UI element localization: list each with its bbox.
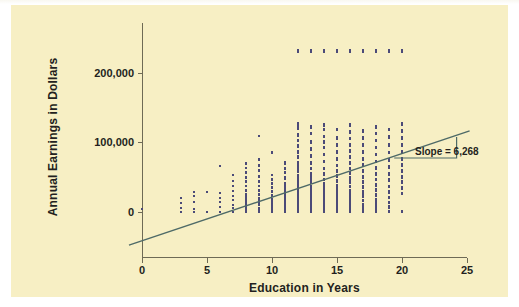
slope-annotation-label: Slope = 6,268 bbox=[415, 146, 479, 157]
y-axis-title: Annual Earnings in Dollars bbox=[46, 17, 60, 257]
scatter-plot-figure: 0510152025 0100,000200,000 Slope = 6,268… bbox=[0, 0, 519, 307]
x-axis-title: Education in Years bbox=[142, 281, 467, 295]
scan-bleed-artifact bbox=[0, 0, 519, 4]
plot-canvas: 0510152025 0100,000200,000 Slope = 6,268… bbox=[11, 5, 508, 297]
